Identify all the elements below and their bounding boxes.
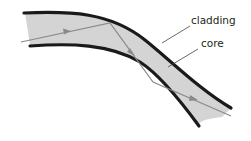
- core-leader-line: [168, 49, 198, 67]
- cladding-leader-line: [162, 26, 190, 43]
- core-label: core: [201, 37, 224, 49]
- fiber-diagram: cladding core: [0, 0, 251, 141]
- cladding-label: cladding: [191, 14, 236, 26]
